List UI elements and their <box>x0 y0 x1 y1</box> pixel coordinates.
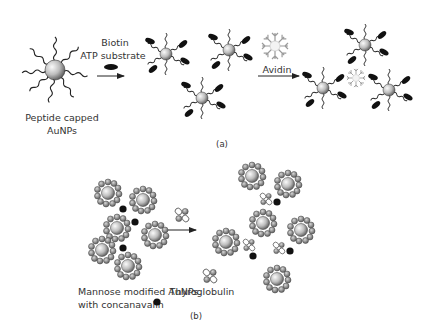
concanavalin-legend-icon <box>153 298 160 305</box>
label-aunps: AuNPs <box>47 125 77 136</box>
caption-b: (b) <box>190 311 202 321</box>
mannose-aunp-icon <box>130 186 158 214</box>
mannose-aunp-icon <box>95 179 123 207</box>
mannose-aunp-icon <box>288 216 316 244</box>
mannose-aunp-icon <box>142 221 170 249</box>
biotinylated-aunp-icon <box>180 77 226 119</box>
mannose-aunp-icon <box>239 162 267 190</box>
thyroglobulin-icon <box>272 241 286 255</box>
avidin-icon <box>262 33 288 59</box>
thyroglobulin-legend-icon <box>202 268 218 284</box>
biotinylated-aunp-icon <box>144 33 190 75</box>
concanavalin-icon <box>273 198 280 205</box>
diagram-canvas: Peptide capped AuNPs Biotin ATP substrat… <box>0 0 430 334</box>
thyroglobulin-icon <box>242 238 256 252</box>
mannose-aunp-icon <box>275 170 303 198</box>
peptide-capped-aunp-icon <box>22 37 88 103</box>
concanavalin-icon <box>119 205 126 212</box>
biotinylated-aunp-icon <box>207 29 253 71</box>
aggregated-aunp-icon <box>343 24 389 66</box>
thyroglobulin-icon <box>174 207 190 223</box>
mannose-aunp-icon <box>115 252 143 280</box>
aggregated-aunp-icon <box>301 67 347 109</box>
concanavalin-icon <box>119 244 126 251</box>
panel-b: Thyroglobulin Mannose modified AuNPs wit… <box>78 162 315 321</box>
label-atp-substrate: ATP substrate <box>80 50 145 61</box>
mannose-aunp-icon <box>213 228 241 256</box>
mannose-aunp-icon <box>89 236 117 264</box>
aggregated-aunp-icon <box>367 69 413 111</box>
mannose-aunp-icon <box>264 265 292 293</box>
label-mannose-aunps: Mannose modified AuNPs <box>78 286 198 297</box>
avidin-bound-icon <box>347 69 365 87</box>
label-avidin: Avidin <box>263 64 292 75</box>
caption-a: (a) <box>216 139 228 149</box>
label-biotin: Biotin <box>101 37 128 48</box>
biotin-icon <box>104 64 118 70</box>
label-peptide-capped: Peptide capped <box>25 112 99 123</box>
thyroglobulin-icon <box>259 192 273 206</box>
concanavalin-icon <box>286 247 293 254</box>
mannose-aunp-icon <box>250 209 278 237</box>
concanavalin-icon <box>131 218 138 225</box>
panel-a: Peptide capped AuNPs Biotin ATP substrat… <box>22 24 414 149</box>
concanavalin-icon <box>249 252 256 259</box>
label-concanavalin: with concanavalin <box>78 299 164 310</box>
